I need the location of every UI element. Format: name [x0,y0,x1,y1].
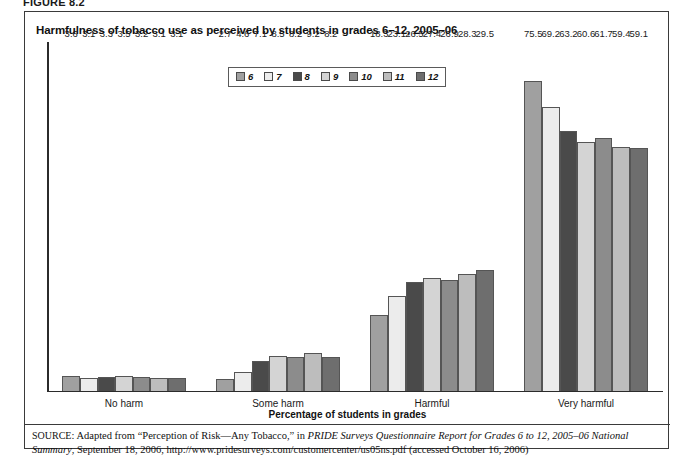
bar-value-label: 8.2 [289,29,302,39]
bar-column[interactable]: 3.1 [150,41,168,391]
source-divider [25,424,670,425]
bar-value-label: 3.1 [170,29,183,39]
bar[interactable]: 63.2 [560,131,578,390]
bar[interactable]: 3.1 [80,378,98,391]
bar-group: 18.323.126.527.426.928.329.5Harmful [355,41,509,391]
bar-column[interactable]: 59.1 [630,41,648,391]
bar[interactable]: 8.2 [287,357,305,391]
figure-frame: Harmfulness of tobacco use as perceived … [24,11,669,449]
bar-value-label: 3.5 [117,29,130,39]
bar[interactable]: 3.6 [62,376,80,391]
bar-value-label: 3.1 [153,29,166,39]
bar-value-label: 3.2 [135,29,148,39]
bar-value-label: 7.1 [254,29,267,39]
bar[interactable]: 28.3 [458,274,476,390]
bar[interactable]: 27.4 [423,278,441,390]
category-label: Some harm [252,398,304,409]
bar-column[interactable]: 27.4 [423,41,441,391]
bar[interactable]: 26.5 [406,282,424,391]
bar[interactable]: 3.5 [115,376,133,390]
bar-value-label: 75.5 [524,29,543,39]
bar-value-label: 9.2 [307,29,320,39]
bar-column[interactable]: 26.5 [406,41,424,391]
bar-value-label: 63.2 [559,29,578,39]
bar[interactable]: 59.4 [612,147,630,391]
bar[interactable]: 3.2 [133,377,151,390]
bar[interactable]: 29.5 [476,270,494,391]
bar-group: 75.569.263.260.661.759.459.1Very harmful [509,41,663,391]
bar[interactable]: 4.6 [234,372,252,391]
bar-value-label: 28.3 [458,29,477,39]
bar[interactable]: 59.1 [630,148,648,390]
bar-column[interactable]: 9.2 [304,41,322,391]
bar-value-label: 8.5 [271,29,284,39]
bar-column[interactable]: 8.5 [269,41,287,391]
bar-group: 2.74.67.18.58.29.28.2Some harm [201,41,355,391]
bar-column[interactable]: 18.3 [370,41,388,391]
bar[interactable]: 3.1 [150,378,168,391]
bar-column[interactable]: 28.3 [458,41,476,391]
figure-label: FIGURE 8.2 [23,0,85,8]
bar-column[interactable]: 3.6 [62,41,80,391]
bar-group-bars: 75.569.263.260.661.759.459.1 [524,41,647,391]
bar-column[interactable]: 4.6 [234,41,252,391]
bar-value-label: 3.3 [100,29,113,39]
bar-column[interactable]: 2.7 [216,41,234,391]
bar-value-label: 60.6 [577,29,596,39]
bar-value-label: 61.7 [594,29,613,39]
bar-column[interactable]: 3.2 [133,41,151,391]
bar-value-label: 2.7 [219,29,232,39]
bar-column[interactable]: 3.5 [115,41,133,391]
bar-column[interactable]: 75.5 [524,41,542,391]
bar-group-bars: 2.74.67.18.58.29.28.2 [216,41,339,391]
bar[interactable]: 18.3 [370,315,388,390]
bar-value-label: 26.9 [440,29,459,39]
bar[interactable]: 60.6 [577,142,595,390]
bar-column[interactable]: 3.3 [98,41,116,391]
bar-column[interactable]: 8.2 [322,41,340,391]
category-label: Harmful [414,398,449,409]
bar[interactable]: 3.1 [168,378,186,391]
bar-column[interactable]: 59.4 [612,41,630,391]
bar-column[interactable]: 8.2 [287,41,305,391]
source-text-b: , September 18, 2006, http://www.pridesu… [72,444,529,455]
bar-value-label: 18.3 [370,29,389,39]
bar-column[interactable]: 3.1 [80,41,98,391]
bar[interactable]: 9.2 [304,353,322,391]
category-label: Very harmful [558,398,614,409]
x-axis-title: Percentage of students in grades [25,409,670,420]
bar[interactable]: 23.1 [388,296,406,391]
bar-column[interactable]: 26.9 [441,41,459,391]
source-note: SOURCE: Adapted from “Perception of Risk… [32,429,666,456]
bar[interactable]: 75.5 [524,81,542,391]
bar-column[interactable]: 60.6 [577,41,595,391]
source-text-a: : Adapted from “Perception of Risk—Any T… [71,430,307,441]
bar-column[interactable]: 63.2 [560,41,578,391]
bar-column[interactable]: 7.1 [252,41,270,391]
bar-value-label: 26.5 [405,29,424,39]
bar-column[interactable]: 69.2 [542,41,560,391]
source-prefix: SOURCE [32,430,71,441]
bar-column[interactable]: 23.1 [388,41,406,391]
bar-value-label: 23.1 [388,29,407,39]
chart-plot-area: 3.63.13.33.53.23.13.1No harm2.74.67.18.5… [25,42,670,392]
bar-value-label: 69.2 [542,29,561,39]
bar-column[interactable]: 29.5 [476,41,494,391]
bar[interactable]: 61.7 [595,138,613,391]
bar[interactable]: 8.5 [269,356,287,391]
bar-value-label: 59.4 [612,29,631,39]
bar-column[interactable]: 3.1 [168,41,186,391]
bar[interactable]: 26.9 [441,280,459,390]
bar-value-label: 27.4 [423,29,442,39]
bar[interactable]: 7.1 [252,361,270,390]
bar-column[interactable]: 61.7 [595,41,613,391]
bar-group: 3.63.13.33.53.23.13.1No harm [47,41,201,391]
bar-value-label: 59.1 [630,29,649,39]
bar-value-label: 3.6 [65,29,78,39]
bar[interactable]: 3.3 [98,377,116,391]
category-label: No harm [105,398,143,409]
bar[interactable]: 8.2 [322,357,340,391]
bar[interactable]: 69.2 [542,107,560,391]
bar-value-label: 4.6 [236,29,249,39]
bar[interactable]: 2.7 [216,379,234,390]
